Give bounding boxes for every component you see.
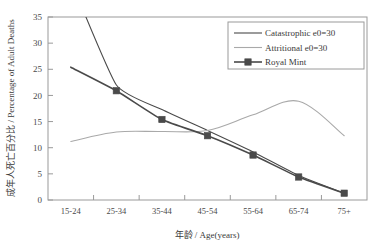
x-category-label: 35-44 [152, 206, 173, 216]
y-axis-title: 成年人死亡百分比 / Percentage of Adult Deaths [5, 19, 16, 197]
y-axis: 05101520253035 [33, 12, 53, 205]
legend-swatch-marker [245, 59, 251, 65]
y-tick-label: 30 [33, 38, 43, 48]
data-point-marker [113, 88, 119, 94]
legend-label: Royal Mint [265, 57, 307, 67]
data-point-marker [204, 132, 210, 138]
legend-label: Catastrophic e0=30 [265, 28, 336, 38]
data-point-marker [295, 174, 301, 180]
x-category-label: 75+ [338, 206, 352, 216]
line-chart: 05101520253035 15-2425-3435-4445-5455-64… [0, 0, 377, 248]
y-tick-label: 20 [33, 91, 43, 101]
x-category-label: 45-54 [198, 206, 219, 216]
data-point-marker [159, 116, 165, 122]
y-tick-label: 15 [33, 117, 43, 127]
x-category-label: 55-64 [243, 206, 264, 216]
y-tick-label: 25 [33, 64, 43, 74]
legend-label: Attritional e0=30 [265, 43, 328, 53]
data-point-marker [341, 190, 347, 196]
chart-figure: 05101520253035 15-2425-3435-4445-5455-64… [0, 0, 377, 248]
x-category-label: 25-34 [106, 206, 127, 216]
x-axis: 15-2425-3435-4445-5455-6465-7475+ [61, 195, 351, 216]
data-point-marker [250, 152, 256, 158]
x-category-label: 15-24 [61, 206, 82, 216]
y-tick-label: 10 [33, 143, 43, 153]
x-axis-title: 年龄 / Age(years) [175, 229, 240, 240]
y-tick-label: 35 [33, 12, 43, 22]
y-tick-label: 0 [38, 195, 43, 205]
x-category-label: 65-74 [289, 206, 310, 216]
y-tick-label: 5 [38, 169, 43, 179]
legend: Catastrophic e0=30Attritional e0=30Royal… [228, 22, 364, 69]
